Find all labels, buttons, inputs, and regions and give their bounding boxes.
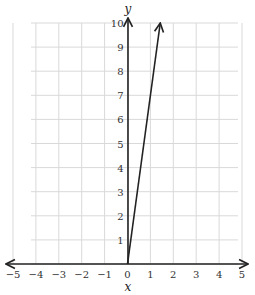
y-axis-label: y xyxy=(124,2,132,16)
y-tick-label: 2 xyxy=(117,211,123,222)
tick-labels: −5−4−3−2−101234512345678910 xyxy=(6,18,246,280)
y-tick-label: 1 xyxy=(117,235,123,246)
y-tick-label: 4 xyxy=(117,163,123,174)
x-tick-label: −5 xyxy=(6,269,21,280)
x-tick-label: 5 xyxy=(239,269,245,280)
x-tick-label: 0 xyxy=(124,269,130,280)
x-tick-label: 2 xyxy=(170,269,176,280)
y-tick-label: 7 xyxy=(117,90,123,101)
x-tick-label: 3 xyxy=(193,269,199,280)
x-tick-label: −3 xyxy=(51,269,66,280)
y-tick-label: 10 xyxy=(111,18,124,29)
x-tick-label: −1 xyxy=(97,269,112,280)
x-tick-label: 4 xyxy=(216,269,222,280)
x-axis-label: x xyxy=(125,280,132,294)
y-tick-label: 8 xyxy=(117,66,123,77)
y-tick-label: 3 xyxy=(117,187,123,198)
y-tick-label: 6 xyxy=(117,114,123,125)
x-tick-label: −4 xyxy=(29,269,44,280)
x-tick-label: −2 xyxy=(74,269,89,280)
x-tick-label: 1 xyxy=(147,269,153,280)
y-tick-label: 5 xyxy=(117,139,123,150)
y-tick-label: 9 xyxy=(117,42,123,53)
coordinate-plane: −5−4−3−2−101234512345678910 x y xyxy=(0,0,255,295)
